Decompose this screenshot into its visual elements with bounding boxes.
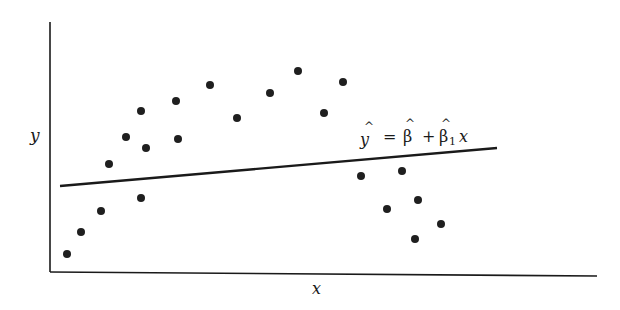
hat-icon: ^: [364, 120, 374, 134]
data-point: [122, 133, 130, 141]
data-point: [398, 167, 406, 175]
data-point: [357, 172, 365, 180]
data-point: [383, 205, 391, 213]
data-point: [174, 135, 182, 143]
data-point: [233, 114, 241, 122]
eq-plus: +: [422, 127, 435, 146]
eq-equals: =: [383, 127, 396, 146]
data-points: [63, 67, 445, 258]
data-point: [97, 207, 105, 215]
scatter-chart: y x y ^ = β ^ + β ^ 1 x: [0, 0, 620, 310]
data-point: [172, 97, 180, 105]
data-point: [411, 235, 419, 243]
data-point: [339, 78, 347, 86]
data-point: [294, 67, 302, 75]
hat-icon: ^: [405, 117, 415, 131]
data-point: [320, 109, 328, 117]
data-point: [142, 144, 150, 152]
data-point: [137, 107, 145, 115]
regression-equation: y ^ = β ^ + β ^ 1 x: [359, 117, 468, 149]
data-point: [63, 250, 71, 258]
data-point: [414, 196, 422, 204]
eq-subscript: 1: [449, 135, 456, 148]
data-point: [266, 89, 274, 97]
data-point: [437, 220, 445, 228]
x-axis: [50, 272, 597, 276]
eq-x: x: [459, 127, 468, 146]
hat-icon: ^: [441, 117, 451, 131]
regression-line: [60, 148, 497, 186]
data-point: [77, 228, 85, 236]
x-axis-label: x: [312, 279, 321, 298]
data-point: [105, 160, 113, 168]
data-point: [206, 81, 214, 89]
data-point: [137, 194, 145, 202]
y-axis-label: y: [29, 125, 40, 145]
